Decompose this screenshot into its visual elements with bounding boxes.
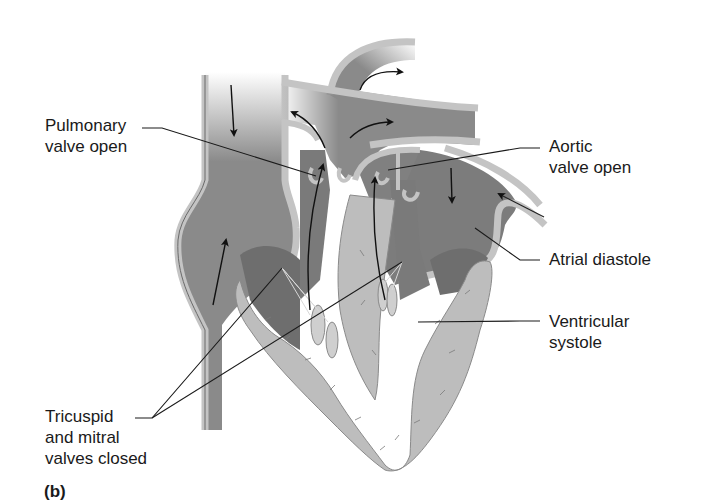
label-ventricular-systole-line2: systole xyxy=(549,332,629,353)
label-atrial-diastole-line1: Atrial diastole xyxy=(549,249,651,270)
label-pulmonary-valve: Pulmonary valve open xyxy=(45,115,127,157)
panel-label: (b) xyxy=(44,482,66,500)
label-pulmonary-valve-line1: Pulmonary xyxy=(45,115,127,136)
label-aortic-valve-line2: valve open xyxy=(549,157,631,178)
label-ventricular-systole-line1: Ventricular xyxy=(549,311,629,332)
label-av-valves-line2: and mitral xyxy=(45,427,147,448)
label-av-valves: Tricuspid and mitral valves closed xyxy=(45,406,147,469)
label-aortic-valve: Aortic valve open xyxy=(549,136,631,178)
label-pulmonary-valve-line2: valve open xyxy=(45,136,127,157)
label-atrial-diastole: Atrial diastole xyxy=(549,249,651,270)
label-av-valves-line1: Tricuspid xyxy=(45,406,147,427)
label-ventricular-systole: Ventricular systole xyxy=(549,311,629,353)
label-av-valves-line3: valves closed xyxy=(45,448,147,469)
label-aortic-valve-line1: Aortic xyxy=(549,136,631,157)
